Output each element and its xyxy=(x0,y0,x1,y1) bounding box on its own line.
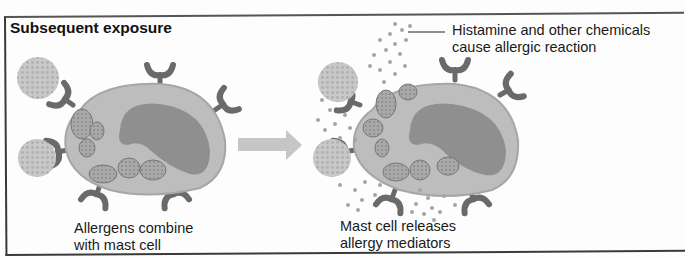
allergen-icon xyxy=(17,57,59,99)
mast-cell-before xyxy=(17,57,239,208)
right-arrow-icon xyxy=(238,130,302,160)
caption-after-line-1: Mast cell releases xyxy=(340,218,456,235)
callout-line-1: Histamine and other chemicals xyxy=(452,22,650,39)
allergen-icon xyxy=(18,139,56,177)
allergen-icon xyxy=(318,62,358,102)
caption-after: Mast cell releases allergy mediators xyxy=(340,218,456,252)
callout-label: Histamine and other chemicals cause alle… xyxy=(452,22,650,56)
callout-line-2: cause allergic reaction xyxy=(452,39,650,56)
caption-before-line-2: with mast cell xyxy=(74,237,193,254)
caption-after-line-2: allergy mediators xyxy=(340,235,456,252)
caption-before: Allergens combine with mast cell xyxy=(74,220,193,254)
caption-before-line-1: Allergens combine xyxy=(74,220,193,237)
allergen-icon xyxy=(313,139,351,177)
